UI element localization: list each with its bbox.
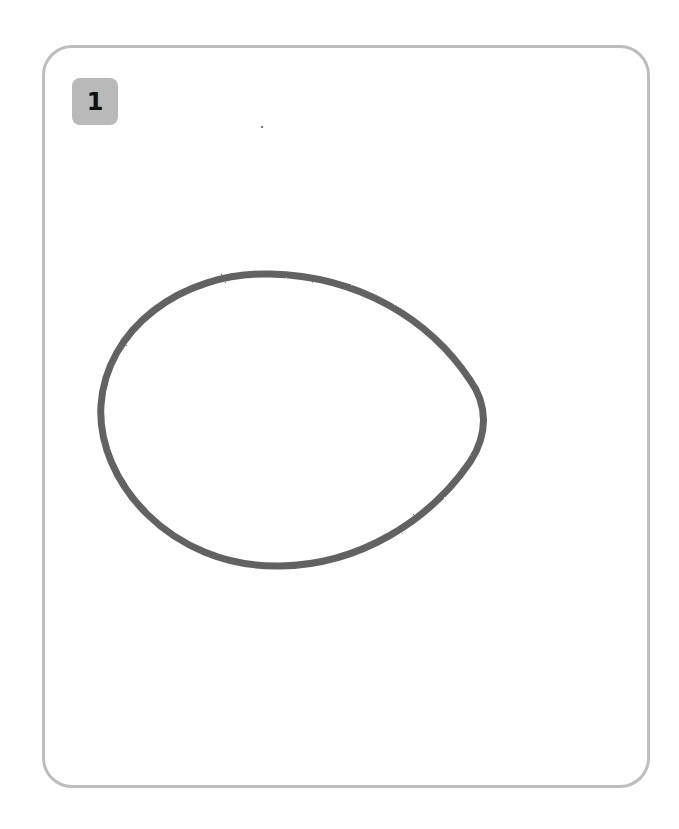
egg-oval-outline — [101, 274, 484, 566]
drawing-canvas — [0, 0, 679, 829]
